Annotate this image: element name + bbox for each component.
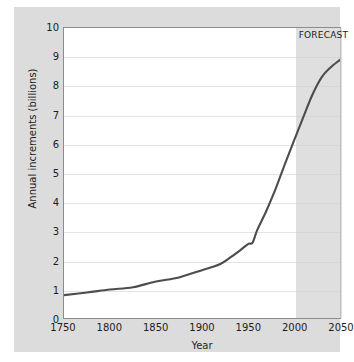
x-tick-label: 2000 <box>282 322 307 333</box>
chart-card: FORECAST 109876543210 175018001850190019… <box>14 7 340 352</box>
population-line-series <box>64 28 340 318</box>
x-tick-label: 1800 <box>97 322 122 333</box>
x-tick-label: 1850 <box>143 322 168 333</box>
x-tick-label: 1950 <box>236 322 261 333</box>
y-tick-label: 10 <box>29 22 59 33</box>
y-tick-label: 1 <box>29 284 59 295</box>
x-tick-label: 1750 <box>50 322 75 333</box>
x-axis-title: Year <box>63 340 341 351</box>
y-axis-title: Annual increments (billions) <box>27 59 38 219</box>
x-axis-tick-labels: 1750180018501900195020002050 <box>63 322 341 338</box>
y-tick-label: 3 <box>29 226 59 237</box>
x-tick-label: 1900 <box>189 322 214 333</box>
plot-area: FORECAST <box>63 27 341 319</box>
y-tick-label: 2 <box>29 255 59 266</box>
x-tick-label: 2050 <box>328 322 353 333</box>
